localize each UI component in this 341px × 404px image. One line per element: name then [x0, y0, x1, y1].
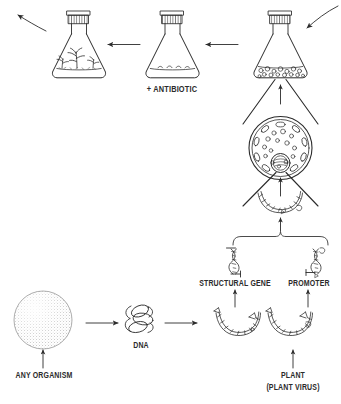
- joining-bracket: [233, 232, 328, 246]
- dna-coil: [125, 303, 154, 335]
- label-plant-virus: (PLANT VIRUS): [260, 382, 326, 392]
- source-dna-circle-right: [266, 308, 313, 336]
- flask-transformed-cells: [254, 11, 307, 78]
- label-antibiotic: + ANTIBIOTIC: [147, 84, 198, 94]
- arrow-out-top-left: [18, 15, 46, 31]
- figure-canvas: + ANTIBIOTIC STRUCTURAL GENE PROMOTER PL…: [0, 0, 341, 404]
- label-plant: PLANT: [268, 370, 317, 380]
- label-promoter: PROMOTER: [284, 278, 335, 288]
- label-structural-gene: STRUCTURAL GENE: [198, 278, 272, 288]
- arrow-in-top-right: [307, 6, 338, 28]
- plant-cell-protoplast: [249, 117, 312, 180]
- diagram-svg: [0, 0, 341, 404]
- source-dna-circle-left: [214, 308, 261, 336]
- label-any-organism: ANY ORGANISM: [12, 370, 76, 380]
- label-dna: DNA: [128, 340, 154, 350]
- flask-with-plantlets: [52, 11, 105, 78]
- any-organism-sphere: [14, 291, 72, 349]
- flask-antibiotic-selection: [146, 11, 199, 78]
- structural-gene-fragment: [227, 248, 241, 277]
- promoter-fragment: [306, 248, 325, 278]
